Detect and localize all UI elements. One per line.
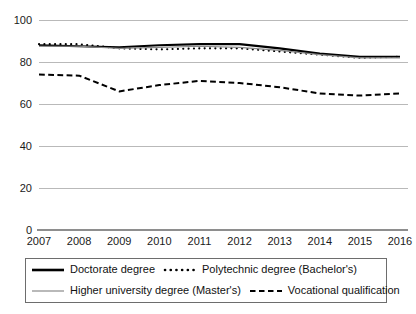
- y-tick-label: 60: [20, 98, 32, 110]
- legend-entry-higher-university-degree: Higher university degree (Master's): [31, 285, 249, 296]
- legend-row-2: Higher university degree (Master's) Voca…: [26, 280, 386, 301]
- legend-swatch-solid-gray-thin: [31, 286, 65, 296]
- legend-entry-polytechnic-degree: Polytechnic degree (Bachelor's): [163, 264, 365, 275]
- plot-area: 020406080100 200720082009201020112012201…: [0, 0, 416, 252]
- x-tick-label: 2008: [67, 235, 91, 247]
- y-tick-label: 20: [20, 182, 32, 194]
- y-tick-label: 80: [20, 56, 32, 68]
- x-tick-label: 2009: [107, 235, 131, 247]
- x-axis-tick-labels: 2007200820092010201120122013201420152016: [27, 235, 412, 247]
- y-axis-tick-labels: 020406080100: [14, 14, 32, 236]
- x-tick-label: 2011: [188, 235, 212, 247]
- x-tick-label: 2010: [147, 235, 171, 247]
- y-tick-label: 40: [20, 140, 32, 152]
- series-line-vocational-qualification: [39, 75, 400, 96]
- line-chart: 020406080100 200720082009201020112012201…: [0, 0, 416, 314]
- legend-label-polytechnic-degree: Polytechnic degree (Bachelor's): [202, 264, 357, 275]
- legend-entry-doctorate-degree: Doctorate degree: [31, 264, 163, 275]
- legend-swatch-dashed-black: [249, 286, 283, 296]
- x-tick-label: 2007: [27, 235, 51, 247]
- data-series-layer: [39, 44, 400, 95]
- legend-entry-vocational-qualification: Vocational qualification: [249, 285, 408, 296]
- legend-label-doctorate-degree: Doctorate degree: [70, 264, 155, 275]
- x-tick-label: 2016: [388, 235, 412, 247]
- chart-legend: Doctorate degree Polytechnic degree (Bac…: [25, 258, 387, 303]
- legend-label-higher-university-degree: Higher university degree (Master's): [70, 285, 241, 296]
- x-tick-label: 2013: [267, 235, 291, 247]
- legend-row-1: Doctorate degree Polytechnic degree (Bac…: [26, 259, 386, 280]
- chart-canvas: 020406080100 200720082009201020112012201…: [0, 0, 416, 252]
- y-tick-label: 100: [14, 14, 32, 26]
- legend-swatch-solid-black-thick: [31, 265, 65, 275]
- legend-label-vocational-qualification: Vocational qualification: [288, 285, 400, 296]
- legend-swatch-dotted-black: [163, 265, 197, 275]
- x-tick-label: 2014: [308, 235, 332, 247]
- x-tick-label: 2015: [348, 235, 372, 247]
- x-tick-label: 2012: [227, 235, 251, 247]
